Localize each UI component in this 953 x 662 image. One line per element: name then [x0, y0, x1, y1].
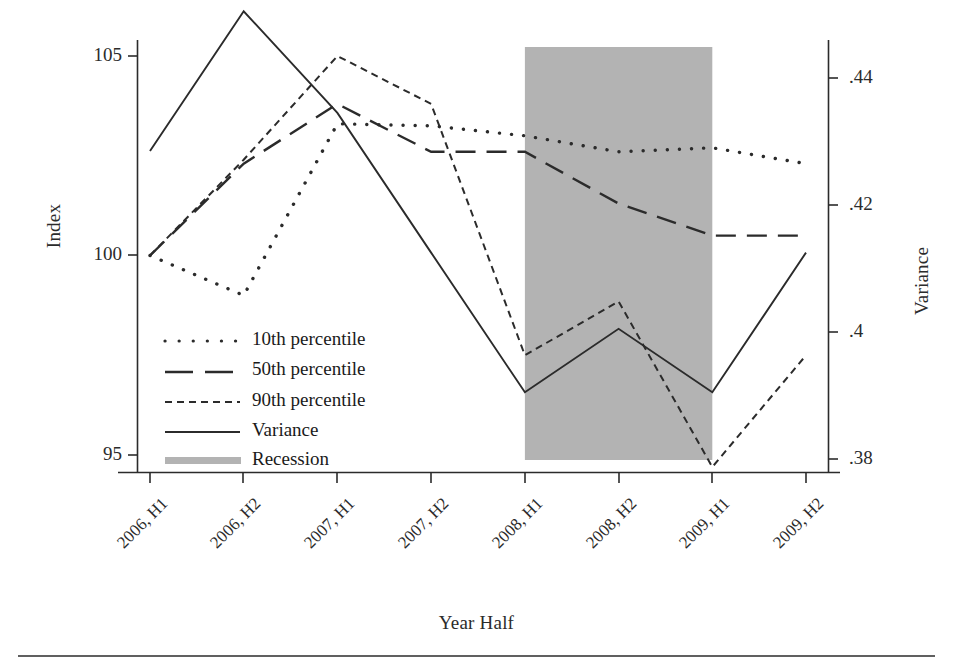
legend-label-recession: Recession — [252, 448, 329, 470]
legend-key-recession — [165, 457, 241, 464]
y-tick-label-right-0: .44 — [849, 66, 873, 88]
y-tick-label-right-2: .4 — [849, 320, 863, 342]
legend-keys — [165, 341, 241, 464]
recession-band — [525, 47, 712, 460]
y-tick-label-left-0: 105 — [60, 44, 122, 66]
y-tick-label-left-1: 100 — [60, 243, 122, 265]
legend-label-10th-percentile: 10th percentile — [252, 328, 365, 350]
legend-label-90th-percentile: 90th percentile — [252, 389, 365, 411]
legend-label-variance: Variance — [252, 419, 318, 441]
y-axis-right-title: Variance — [911, 221, 933, 341]
y-axis-left-title: Index — [43, 166, 65, 286]
y-tick-label-left-2: 95 — [60, 443, 122, 465]
x-axis-ticks — [150, 473, 806, 484]
y-tick-label-right-1: .42 — [849, 193, 873, 215]
x-axis-title: Year Half — [0, 612, 953, 634]
chart-figure: Index Variance Year Half 105 100 95 .44 … — [0, 0, 953, 662]
y-tick-label-right-3: .38 — [849, 447, 873, 469]
legend-label-50th-percentile: 50th percentile — [252, 358, 365, 380]
